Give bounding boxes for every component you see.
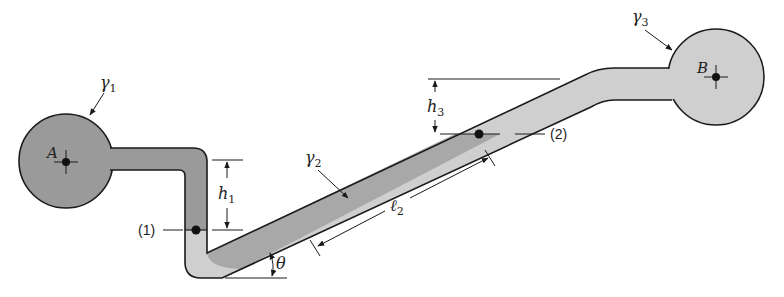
svg-text:h1: h1 (218, 184, 235, 206)
svg-text:γ2: γ2 (305, 148, 322, 170)
gamma3-label: γ3 (632, 7, 672, 50)
svg-text:γ3: γ3 (632, 7, 649, 29)
label-b: B (696, 59, 708, 77)
svg-text:h3: h3 (427, 97, 444, 119)
svg-text:ℓ2: ℓ2 (390, 196, 404, 218)
label-point-1: (1) (138, 222, 155, 238)
seam-b (664, 69, 678, 99)
label-a: A (45, 144, 58, 162)
h1-dimension: h1 (212, 160, 243, 228)
seam-a (100, 149, 112, 169)
svg-text:γ1: γ1 (100, 73, 117, 95)
label-point-2: (2) (550, 126, 567, 142)
svg-text:θ: θ (276, 254, 286, 273)
sloped-pipe-gamma2-section (207, 134, 500, 269)
pipe-system-diagram: A B γ1 γ2 γ3 (1) (2) h1 (0, 0, 784, 297)
pipe-a-dark-fluid (108, 148, 207, 230)
reservoir-a-group (19, 29, 764, 278)
gamma1-label: γ1 (90, 73, 117, 115)
